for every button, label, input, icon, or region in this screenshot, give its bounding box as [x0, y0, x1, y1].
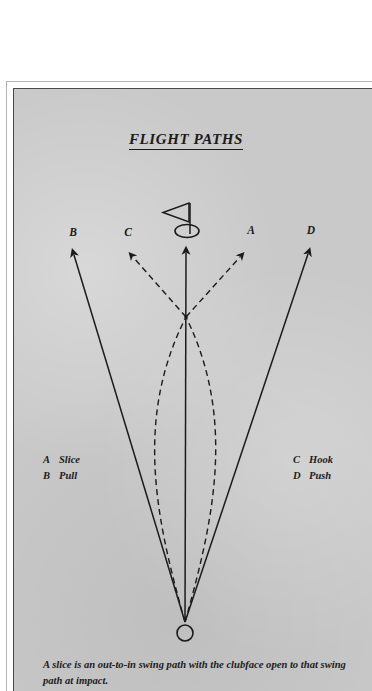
path-d-push [185, 254, 308, 622]
flag-icon [163, 203, 189, 222]
legend-left: ASlice BPull [43, 452, 80, 484]
legend-key-c: C [293, 452, 309, 468]
legend-key-d: D [293, 468, 309, 484]
legend-name-b: Pull [59, 470, 77, 481]
path-a-slice-curve [155, 317, 186, 622]
figure-caption: A slice is an out-to-in swing path with … [43, 657, 348, 689]
figure-plate: FLIGHT PATHS B C A [14, 89, 372, 691]
path-label-a: A [242, 224, 260, 236]
path-target-line [185, 253, 186, 622]
legend-key-b: B [43, 468, 59, 484]
legend-item-a: ASlice [43, 452, 80, 468]
legend-right: CHook DPush [293, 452, 333, 484]
legend-item-b: BPull [43, 468, 80, 484]
path-label-d: D [302, 224, 320, 236]
legend-name-d: Push [309, 470, 331, 481]
path-label-b: B [64, 226, 82, 238]
legend-key-a: A [43, 452, 59, 468]
hole-icon [175, 225, 199, 238]
legend-name-c: Hook [309, 454, 333, 465]
path-b-pull [74, 255, 185, 622]
flight-paths-diagram [14, 89, 372, 691]
legend-item-c: CHook [293, 452, 333, 468]
hole-and-flag-group [163, 203, 199, 238]
golf-ball-icon [177, 625, 193, 641]
paths-crossing-point [184, 315, 188, 319]
legend-item-d: DPush [293, 468, 333, 484]
path-c-hook-arrow [133, 257, 186, 317]
path-a-slice-arrow [186, 257, 240, 317]
path-label-c: C [119, 226, 137, 238]
legend-name-a: Slice [59, 454, 80, 465]
